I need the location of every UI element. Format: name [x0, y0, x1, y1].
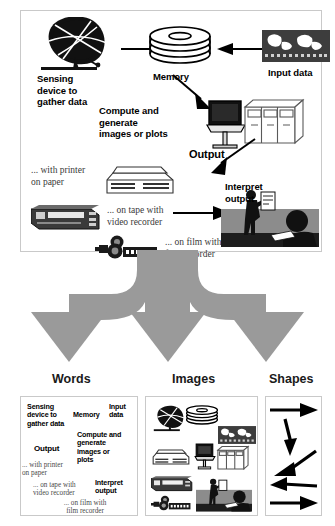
panel-words: Sensing device to gather data Memory Inp…: [20, 396, 138, 516]
mini-film-1: ... on film with: [55, 499, 115, 507]
panel-shapes: [265, 396, 322, 516]
mini-label-tape: ... on tape with video recorder: [33, 481, 91, 498]
mini-label-interpret: Interpret output: [95, 479, 135, 496]
column-heading-words: Words: [52, 372, 91, 386]
label-sensing-device: Sensing device to gather data: [37, 73, 127, 108]
mini-compute-4: plots: [77, 456, 135, 464]
printer-line-1: ... with printer: [31, 165, 111, 177]
satellite-dish-icon: [35, 17, 121, 73]
compute-line-1: Compute and: [99, 105, 209, 117]
mini-input-2: data: [109, 411, 137, 419]
mini-film-2: film recorder: [55, 507, 115, 515]
column-heading-shapes: Shapes: [269, 372, 313, 386]
mini-printer-2: on paper: [22, 469, 76, 477]
workflow-diagram-panel: Sensing device to gather data Memory: [20, 10, 322, 252]
label-input-data: Input data: [268, 67, 312, 79]
label-compute: Compute and generate images or plots: [99, 105, 209, 140]
film-recorder-icon: [151, 495, 193, 511]
label-with-printer: ... with printer on paper: [31, 165, 111, 188]
printer-line-2: on paper: [31, 177, 111, 189]
arrow-input-to-memory: [215, 41, 263, 57]
mini-label-output: Output: [34, 445, 59, 453]
film-strip-icon: [218, 426, 256, 444]
sensing-line-2: device to: [37, 85, 127, 97]
mini-interpret-2: output: [95, 487, 135, 495]
mini-tape-2: video recorder: [33, 489, 91, 497]
arrow-down-left-3: [272, 449, 320, 479]
interpret-line-1: Interpret: [225, 181, 295, 193]
disk-stack-icon: [148, 24, 212, 70]
presentation-scene-icon: [196, 477, 252, 513]
film-strip-icon: [262, 30, 330, 62]
mini-label-compute: Compute and generate images or plots: [77, 431, 135, 465]
video-recorder-icon: [151, 475, 193, 493]
label-interpret: Interpret output: [225, 181, 295, 204]
mini-label-memory: Memory: [73, 411, 100, 419]
mainframe-cabinets-icon: [216, 445, 252, 471]
mini-sensing-3: gather data: [27, 420, 69, 428]
arrow-right-5: [268, 495, 320, 511]
disk-stack-icon: [185, 403, 219, 429]
arrow-left-4: [269, 477, 319, 493]
mini-tape-1: ... on tape with: [33, 481, 91, 489]
printer-icon: [151, 447, 191, 467]
three-way-split-arrow: [0, 250, 335, 368]
mini-label-printer: ... with printer on paper: [22, 461, 76, 478]
video-recorder-icon: [31, 203, 101, 233]
mini-printer-1: ... with printer: [22, 461, 76, 469]
panel-images: [145, 396, 258, 516]
mini-label-film: ... on film with film recorder: [55, 499, 115, 516]
interpret-line-2: output: [225, 193, 295, 205]
column-heading-images: Images: [172, 372, 215, 386]
compute-line-2: generate: [99, 117, 209, 129]
printer-icon: [103, 163, 177, 197]
sensing-line-1: Sensing: [37, 73, 127, 85]
mini-label-sensing: Sensing device to gather data: [27, 403, 69, 428]
mini-label-input: Input data: [109, 403, 137, 420]
computer-workstation-icon: [194, 443, 216, 470]
arrow-right-1: [268, 402, 320, 418]
label-output: Output: [189, 149, 224, 161]
